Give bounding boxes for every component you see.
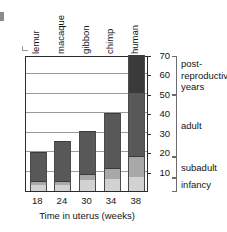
category-label-wrap-lemur: lemur xyxy=(25,0,49,54)
y-tick-mark-70 xyxy=(148,56,151,57)
category-label-gibbon: gibbon xyxy=(81,25,91,54)
stage-label-line: subadult xyxy=(181,162,227,174)
category-label-wrap-macaque: macaque xyxy=(50,0,74,54)
y-tick-mark-30 xyxy=(148,134,151,135)
y-tick-label-40: 40 xyxy=(150,109,170,119)
x-tick-label-38: 38 xyxy=(123,196,149,206)
bar-segment-chimp-adult xyxy=(105,113,120,167)
bar-segment-lemur-infancy xyxy=(31,185,46,191)
bar-segment-macaque-subadult xyxy=(55,181,70,185)
bar-segment-macaque-infancy xyxy=(55,185,70,191)
stage-brace-subadult xyxy=(172,157,177,178)
stage-label-line: infancy xyxy=(181,179,227,191)
stage-label-adult: adult xyxy=(181,120,227,132)
stage-label-infancy: infancy xyxy=(181,179,227,191)
y-tick-label-50: 50 xyxy=(150,90,170,100)
stage-brace-adult xyxy=(172,95,177,157)
scan-artifact-mark xyxy=(0,12,4,21)
bar-segment-chimp-infancy xyxy=(105,179,120,191)
y-tick-mark-50 xyxy=(148,95,151,96)
bar-gibbon xyxy=(79,131,96,191)
plot-area xyxy=(25,56,148,192)
bar-chimp xyxy=(104,113,121,191)
y-tick-label-70: 70 xyxy=(150,51,170,61)
x-tick-label-24: 24 xyxy=(49,196,75,206)
bar-segment-lemur-adult xyxy=(31,152,46,181)
stage-label-line: post- xyxy=(181,58,227,70)
category-label-wrap-chimp: chimp xyxy=(99,0,123,54)
stage-label-subadult: subadult xyxy=(181,162,227,174)
category-label-wrap-human: human xyxy=(124,0,148,54)
bar-segment-human-infancy xyxy=(129,177,144,191)
stage-brace-infancy xyxy=(172,178,177,192)
y-tick-mark-10 xyxy=(148,173,151,174)
chart-figure: lemurmacaquegibbonchimphuman 10203040506… xyxy=(0,0,227,232)
bar-segment-gibbon-subadult xyxy=(80,174,95,181)
x-tick-label-30: 30 xyxy=(74,196,100,206)
category-label-lemur: lemur xyxy=(31,30,41,54)
category-label-wrap-gibbon: gibbon xyxy=(75,0,99,54)
x-tick-label-18: 18 xyxy=(24,196,50,206)
category-label-human: human xyxy=(130,25,140,54)
stage-label-post-reproductive: post-reproductiveyears xyxy=(181,58,227,93)
bar-lemur xyxy=(30,152,47,191)
y-tick-mark-60 xyxy=(148,75,151,76)
y-tick-mark-20 xyxy=(148,153,151,154)
category-label-chimp: chimp xyxy=(105,29,115,54)
y-tick-label-20: 20 xyxy=(150,148,170,158)
y-tick-label-60: 60 xyxy=(150,70,170,80)
bar-segment-macaque-adult xyxy=(55,141,70,182)
bar-segment-chimp-subadult xyxy=(105,168,120,180)
stage-label-line: reproductive xyxy=(181,70,227,82)
bar-segment-human-adult xyxy=(129,92,144,156)
bar-segment-human-post-reproductive xyxy=(129,55,144,92)
y-tick-label-10: 10 xyxy=(150,168,170,178)
y-tick-label-30: 30 xyxy=(150,129,170,139)
category-label-macaque: macaque xyxy=(56,15,66,54)
x-tick-label-34: 34 xyxy=(98,196,124,206)
bar-segment-gibbon-infancy xyxy=(80,180,95,191)
y-tick-mark-40 xyxy=(148,114,151,115)
stage-label-line: adult xyxy=(181,120,227,132)
bar-segment-lemur-subadult xyxy=(31,181,46,185)
bar-human xyxy=(128,55,145,191)
stage-label-line: years xyxy=(181,81,227,93)
bar-macaque xyxy=(54,141,71,192)
bar-segment-human-subadult xyxy=(129,156,144,177)
bar-segment-gibbon-adult xyxy=(80,131,95,174)
stage-brace-post-reproductive xyxy=(172,56,177,95)
x-axis-title: Time in uterus (weeks) xyxy=(25,211,149,221)
